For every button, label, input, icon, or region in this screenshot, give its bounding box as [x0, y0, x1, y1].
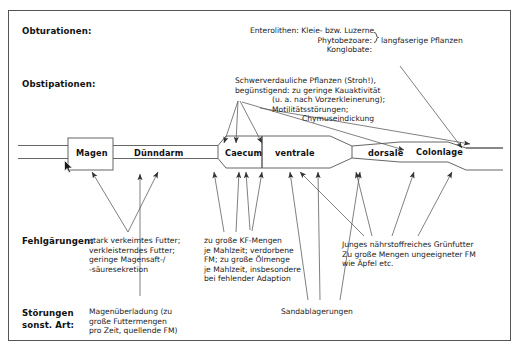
annotation-fehlgaerungen-1-line3: geringe Magensaft-/: [89, 255, 165, 265]
annotation-obturationen-line2: Phytobezoare:: [250, 36, 372, 46]
annotation-stoerungen-line1: Magenüberladung (zu: [89, 307, 172, 317]
annotation-obstipationen-line4: Motilitätsstörungen;: [272, 105, 348, 115]
annotation-obstipationen-line2: begünstigend: zu geringe Kauaktivität: [235, 86, 380, 96]
gut-segment-dorsale[interactable]: dorsale: [368, 148, 403, 158]
annotation-obturationen-line1: Enterolithen: Kleie- bzw. Luzerne: [250, 26, 372, 36]
mouse-cursor: [64, 160, 74, 174]
annotation-stoerungen-line3: pro Zeit, quellende FM): [89, 326, 177, 336]
annotation-fehlgaerungen-3-line3: wie Äpfel etc.: [342, 259, 394, 269]
annotation-stoerungen-line2: große Futtermengen: [89, 317, 167, 327]
annotation-fehlgaerungen-1-line4: -säuresekretion: [89, 265, 148, 275]
gut-segment-colonlage[interactable]: Colonlage: [416, 147, 463, 157]
annotation-obturationen-brace-text: langfaserige Pflanzen: [381, 36, 463, 46]
annotation-fehlgaerungen-3-line2: Zu große Mengen ungeeigneter FM: [342, 250, 476, 260]
annotation-fehlgaerungen-2-line4: je Mahlzeit, insbesondere: [204, 265, 301, 275]
annotation-fehlgaerungen-1-line2: verkleisterndes Futter;: [89, 246, 175, 256]
annotation-fehlgaerungen-2-line5: bei fehlender Adaption: [204, 274, 291, 284]
annotation-fehlgaerungen-3-line1: Junges nährstoffreiches Grünfutter: [342, 240, 474, 250]
annotation-fehlgaerungen-2-line3: FM; zu große Ölmenge: [204, 255, 290, 265]
gut-segment-magen[interactable]: Magen: [76, 148, 108, 158]
annotation-fehlgaerungen-1-line1: stark verkeimtes Futter;: [89, 236, 180, 246]
annotation-obturationen-line3: Konglobate:: [250, 45, 372, 55]
annotation-obstipationen-line3: (u. a. nach Vorzerkleinerung);: [272, 95, 385, 105]
gut-segment-ventrale[interactable]: ventrale: [275, 148, 315, 158]
annotation-obstipationen-line1: Schwerverdauliche Pflanzen (Stroh!),: [235, 76, 376, 86]
annotation-fehlgaerungen-2-line2: je Mahlzeit; verdorbene: [204, 246, 294, 256]
annotation-fehlgaerungen-2-line1: zu große KF-Mengen: [204, 236, 282, 246]
gut-segment-caecum[interactable]: Caecum: [225, 148, 262, 158]
annotation-sandablagerungen: Sandablagerungen: [281, 307, 353, 317]
gut-segment-duenndarm[interactable]: Dünndarm: [134, 148, 183, 158]
annotation-obstipationen-line5: Chymuseindickung: [302, 114, 374, 124]
curly-brace: [374, 33, 379, 43]
